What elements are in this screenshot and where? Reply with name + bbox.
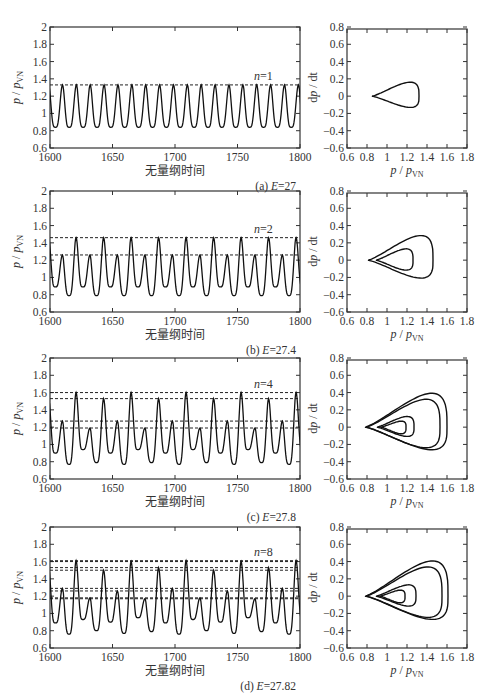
y-tick-label: 1.6 [33, 387, 48, 399]
y-tick-label: 0 [338, 421, 344, 433]
y-axis-label: dp / dt [306, 236, 320, 267]
limit-cycle-loop [372, 82, 419, 107]
y-axis-label: p / pVN [9, 571, 25, 605]
y-tick-label: 0 [338, 590, 344, 602]
y-tick-label: 0.4 [330, 556, 345, 568]
x-tick-label: 1700 [164, 151, 187, 163]
y-tick-label: 0.8 [33, 289, 48, 301]
x-tick-label: 1800 [289, 151, 312, 163]
limit-cycle-loop [380, 590, 405, 603]
period-annotation: n=8 [254, 545, 273, 559]
phase-portrait-plot-b: −0.6−0.4−0.200.20.40.60.80.60.811.21.41.… [306, 185, 474, 343]
y-tick-label: 1.2 [33, 590, 48, 602]
y-tick-label: −0.4 [323, 625, 344, 637]
x-tick-label: 1750 [226, 651, 249, 663]
y-tick-label: 0.8 [33, 625, 48, 637]
y-tick-label: 1 [41, 271, 47, 283]
axes-frame [347, 29, 467, 148]
y-tick-label: 0.6 [330, 538, 345, 550]
y-tick-label: 1.2 [33, 421, 48, 433]
y-tick-label: 0.6 [330, 369, 345, 381]
x-tick-label: 1.4 [420, 315, 435, 327]
y-tick-label: 1.8 [33, 38, 48, 50]
y-tick-label: 0 [338, 254, 344, 266]
x-axis-label: p / pVN [390, 327, 424, 343]
y-axis-label: p / pVN [9, 235, 25, 269]
y-axis-label: dp / dt [306, 403, 320, 434]
x-tick-label: 1.6 [440, 482, 455, 494]
y-tick-label: 0.4 [330, 56, 345, 68]
y-tick-label: 1.8 [33, 369, 48, 381]
pressure-waveform [42, 85, 320, 127]
y-axis-label: p / pVN [9, 71, 25, 105]
y-tick-label: 1.4 [33, 404, 48, 416]
time-series-plot-a: 0.60.811.21.41.61.8216001650170017501800… [9, 21, 319, 193]
y-tick-label: 1.6 [33, 56, 48, 68]
y-tick-label: 2 [41, 352, 47, 364]
x-tick-label: 1.2 [400, 651, 415, 663]
y-axis-label: p / pVN [9, 402, 25, 436]
x-axis-label: 无量纲时间 [145, 495, 205, 509]
x-tick-label: 0.8 [360, 151, 375, 163]
y-tick-label: 2 [41, 185, 47, 197]
x-axis-label: p / pVN [390, 663, 424, 679]
x-tick-label: 1600 [39, 482, 62, 494]
x-tick-label: 1650 [101, 651, 124, 663]
x-tick-label: 0.8 [360, 651, 375, 663]
y-tick-label: 1.4 [33, 73, 48, 85]
y-tick-label: 0.4 [330, 220, 345, 232]
pressure-waveform [42, 238, 317, 296]
limit-cycle-loop [368, 236, 433, 279]
y-tick-label: −0.4 [323, 456, 344, 468]
x-tick-label: 1.6 [440, 651, 455, 663]
x-tick-label: 1 [384, 151, 390, 163]
y-tick-label: 0.8 [330, 352, 345, 364]
x-tick-label: 1.2 [400, 482, 415, 494]
y-tick-label: −0.2 [323, 271, 344, 283]
x-tick-label: 0.6 [340, 482, 355, 494]
axes-frame [347, 360, 467, 479]
x-tick-label: 1 [384, 315, 390, 327]
y-tick-label: 1.4 [33, 237, 48, 249]
bifurcation-figure: 0.60.811.21.41.61.8216001650170017501800… [0, 0, 484, 698]
x-tick-label: 1.8 [460, 651, 475, 663]
x-tick-label: 1600 [39, 151, 62, 163]
x-tick-label: 1750 [226, 482, 249, 494]
period-annotation: n=4 [254, 377, 273, 391]
x-tick-label: 1600 [39, 315, 62, 327]
x-axis-label: 无量纲时间 [145, 664, 205, 678]
y-tick-label: 0 [338, 90, 344, 102]
y-tick-label: −0.2 [323, 107, 344, 119]
y-tick-label: 1.8 [33, 202, 48, 214]
y-tick-label: 2 [41, 521, 47, 533]
y-tick-label: 0.6 [330, 202, 345, 214]
y-tick-label: 0.4 [330, 387, 345, 399]
x-tick-label: 1800 [289, 651, 312, 663]
x-tick-label: 0.6 [340, 315, 355, 327]
y-tick-label: 0.2 [330, 573, 345, 585]
x-tick-label: 1.8 [460, 151, 475, 163]
y-tick-label: 0.8 [33, 125, 48, 137]
limit-cycle-loop [366, 399, 440, 448]
y-tick-label: 1.4 [33, 573, 48, 585]
y-tick-label: 0.8 [330, 521, 345, 533]
y-tick-label: −0.2 [323, 438, 344, 450]
y-tick-label: 1.2 [33, 254, 48, 266]
x-tick-label: 1700 [164, 651, 187, 663]
y-tick-label: 0.8 [330, 21, 345, 33]
y-tick-label: 0.6 [330, 38, 345, 50]
y-tick-label: 1.2 [33, 90, 48, 102]
x-tick-label: 1.4 [420, 651, 435, 663]
x-tick-label: 1650 [101, 315, 124, 327]
x-tick-label: 0.8 [360, 315, 375, 327]
x-tick-label: 0.8 [360, 482, 375, 494]
y-axis-label: dp / dt [306, 72, 320, 103]
period-annotation: n=2 [254, 222, 273, 236]
y-tick-label: −0.4 [323, 125, 344, 137]
panel-caption: (d) E=27.82 [240, 680, 296, 693]
x-tick-label: 0.6 [340, 651, 355, 663]
x-tick-label: 1.6 [440, 151, 455, 163]
y-tick-label: 1 [41, 438, 47, 450]
x-tick-label: 1800 [289, 315, 312, 327]
y-tick-label: −0.2 [323, 607, 344, 619]
